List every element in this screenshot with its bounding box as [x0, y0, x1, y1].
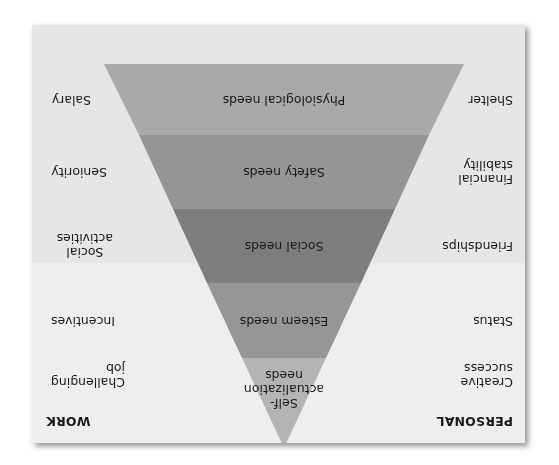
personal-esteem: Status [473, 314, 513, 328]
level-label-social: Social needs [214, 239, 354, 253]
personal-social: Friendships [442, 239, 513, 253]
level-label-physiological: Physiological needs [184, 93, 384, 107]
personal-safety: Financial stability [458, 158, 513, 186]
personal-physiological: Shelter [468, 93, 513, 107]
work-column-header: WORK [46, 414, 91, 429]
level-label-esteem: Esteem needs [214, 314, 354, 328]
level-label-safety: Safety needs [214, 165, 354, 179]
diagram-rotated-container: PERSONAL WORK Self- actualization needs … [0, 0, 559, 465]
work-self-actualization: Challenging job [51, 361, 125, 389]
work-safety: Seniority [51, 165, 107, 179]
diagram-card: PERSONAL WORK Self- actualization needs … [32, 25, 525, 443]
personal-self-actualization: Creative success [461, 361, 513, 389]
level-label-self-actualization: Self- actualization needs [234, 368, 334, 410]
work-esteem: Incentives [51, 314, 115, 328]
personal-column-header: PERSONAL [436, 414, 513, 429]
work-social: Social activities [57, 231, 113, 259]
work-physiological: Salary [52, 93, 91, 107]
